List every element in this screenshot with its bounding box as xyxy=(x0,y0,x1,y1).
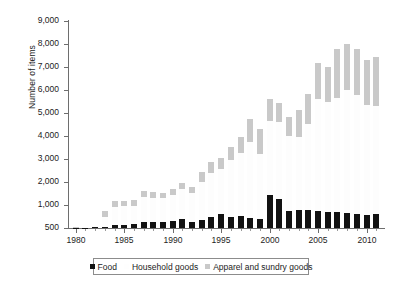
x-tick-minor xyxy=(231,229,232,231)
legend-label: Household goods xyxy=(132,262,198,272)
x-tick-mark xyxy=(270,229,271,233)
bar-column xyxy=(276,21,282,228)
bar-segment-household xyxy=(199,182,205,220)
bar-segment-apparel xyxy=(364,60,370,105)
bar-segment-food xyxy=(364,215,370,228)
x-tick-minor xyxy=(211,229,212,231)
bar-column xyxy=(247,21,253,228)
bar-segment-apparel xyxy=(199,172,205,182)
bar-segment-food xyxy=(354,214,360,228)
bar-column xyxy=(179,21,185,228)
bar-segment-apparel xyxy=(305,94,311,125)
bar-segment-food xyxy=(305,210,311,228)
bar-column xyxy=(334,21,340,228)
legend-swatch-icon xyxy=(205,264,210,269)
x-tick-minor xyxy=(250,229,251,231)
x-tick-label: 2010 xyxy=(347,235,387,245)
bar-segment-food xyxy=(276,199,282,228)
x-tick-label: 1980 xyxy=(56,235,96,245)
bar-column xyxy=(257,21,263,228)
bar-column xyxy=(112,21,118,228)
x-tick-minor xyxy=(279,229,280,231)
chart-legend: FoodHousehold goodsApparel and sundry go… xyxy=(93,258,309,275)
bar-segment-food xyxy=(131,224,137,228)
bar-segment-food xyxy=(141,222,147,228)
bar-segment-household xyxy=(364,105,370,215)
x-tick-mark xyxy=(173,229,174,233)
x-tick-minor xyxy=(289,229,290,231)
x-tick-label: 2005 xyxy=(298,235,338,245)
x-tick-mark xyxy=(221,229,222,233)
bar-segment-household xyxy=(150,198,156,222)
y-tick-label: 500 xyxy=(45,222,59,232)
bar-segment-household xyxy=(121,206,127,224)
y-tick: 5,000 xyxy=(0,113,68,114)
bar-segment-apparel xyxy=(286,117,292,136)
legend-label: Apparel and sundry goods xyxy=(213,262,312,272)
bar-column xyxy=(228,21,234,228)
y-tick: 3,000 xyxy=(0,159,68,160)
bar-segment-apparel xyxy=(218,158,224,169)
y-tick: 9,000 xyxy=(0,21,68,22)
bar-segment-apparel xyxy=(228,147,234,160)
y-tick-label: 5,000 xyxy=(38,107,59,117)
bar-segment-apparel xyxy=(296,110,302,136)
bar-column xyxy=(315,21,321,228)
bar-column xyxy=(296,21,302,228)
bar-segment-apparel xyxy=(247,119,253,142)
bar-segment-food xyxy=(92,227,98,228)
x-tick-minor xyxy=(357,229,358,231)
bar-segment-apparel xyxy=(238,137,244,152)
bar-segment-apparel xyxy=(344,44,350,90)
plot-area xyxy=(68,21,384,228)
y-tick: 1,000 xyxy=(0,205,68,206)
bar-segment-household xyxy=(325,102,331,212)
x-tick-minor xyxy=(328,229,329,231)
bar-segment-household xyxy=(102,217,108,227)
bar-column xyxy=(218,21,224,228)
bar-segment-food xyxy=(102,227,108,228)
y-tick: 500 xyxy=(0,228,68,229)
bar-segment-household xyxy=(286,136,292,210)
y-tick-label: 6,000 xyxy=(38,84,59,94)
x-tick-label: 1995 xyxy=(201,235,241,245)
bar-column xyxy=(141,21,147,228)
bar-segment-food xyxy=(315,211,321,228)
y-tick-label: 9,000 xyxy=(38,15,59,25)
x-tick-minor xyxy=(299,229,300,231)
bar-column xyxy=(354,21,360,228)
bar-segment-household xyxy=(141,197,147,222)
x-tick-mark xyxy=(318,229,319,233)
bar-segment-household xyxy=(296,137,302,210)
bar-segment-household xyxy=(228,160,234,216)
y-tick: 4,000 xyxy=(0,136,68,137)
y-tick: 7,000 xyxy=(0,67,68,68)
bar-segment-household xyxy=(257,154,263,218)
bar-segment-apparel xyxy=(208,162,214,173)
y-tick-label: 3,000 xyxy=(38,153,59,163)
bar-segment-food xyxy=(344,213,350,228)
bar-column xyxy=(364,21,370,228)
bar-segment-food xyxy=(179,219,185,228)
x-tick-minor xyxy=(95,229,96,231)
bar-segment-apparel xyxy=(267,99,273,121)
bar-segment-household xyxy=(334,98,340,213)
bar-segment-food xyxy=(218,214,224,228)
bar-segment-food xyxy=(160,222,166,228)
x-tick-minor xyxy=(115,229,116,231)
bar-column xyxy=(102,21,108,228)
legend-item: Household goods xyxy=(124,262,198,272)
x-tick-minor xyxy=(134,229,135,231)
x-tick-minor xyxy=(153,229,154,231)
x-tick-minor xyxy=(144,229,145,231)
bar-segment-household xyxy=(276,122,282,199)
x-tick-minor xyxy=(337,229,338,231)
y-tick-label: 4,000 xyxy=(38,130,59,140)
bar-segment-food xyxy=(257,219,263,228)
bar-segment-household xyxy=(373,106,379,215)
x-tick-minor xyxy=(163,229,164,231)
bar-segment-apparel xyxy=(315,63,321,99)
bar-segment-household xyxy=(170,195,176,221)
bar-column xyxy=(189,21,195,228)
bar-segment-household xyxy=(267,121,273,195)
